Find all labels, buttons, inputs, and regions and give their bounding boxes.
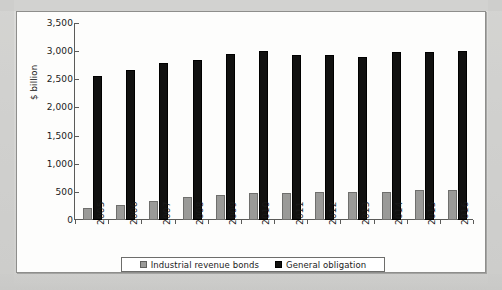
bar-general-obligation-2008 — [193, 60, 202, 220]
bar-industrial-revenue-bonds-2015 — [415, 190, 424, 220]
scanned-page: $ billion 05001,0001,5002,0002,5003,0003… — [0, 0, 502, 290]
bar-industrial-revenue-bonds-2014 — [382, 192, 391, 220]
x-axis-tick-mark — [75, 220, 76, 224]
scan-shading-bottom — [0, 274, 502, 290]
bar-general-obligation-2006 — [126, 70, 135, 220]
bar-group-2008 — [175, 23, 208, 220]
bar-group-2009 — [208, 23, 241, 220]
x-axis-tick-label-2014: 2014 — [394, 201, 404, 225]
bar-industrial-revenue-bonds-2009 — [216, 195, 225, 220]
y-axis-tick-label: 3,500 — [31, 19, 73, 28]
bar-group-2016 — [440, 23, 473, 220]
bar-general-obligation-2011 — [292, 55, 301, 220]
bar-general-obligation-2010 — [259, 51, 268, 220]
bar-general-obligation-2005 — [93, 76, 102, 220]
bar-group-2015 — [407, 23, 440, 220]
y-axis-tick-mark — [74, 79, 79, 80]
x-axis-tick-mark — [108, 220, 109, 224]
x-axis-tick-label-2012: 2012 — [328, 201, 338, 225]
scan-shading-left — [0, 0, 14, 290]
square-marker-black-icon — [275, 261, 282, 268]
chart-legend: Industrial revenue bonds General obligat… — [121, 257, 385, 272]
x-axis-tick-mark — [274, 220, 275, 224]
x-axis-tick-label-2007: 2007 — [162, 201, 172, 225]
chart-plot-area: $ billion 05001,0001,5002,0002,5003,0003… — [17, 12, 485, 272]
y-axis-tick-mark — [74, 164, 79, 165]
bars-container — [75, 23, 473, 220]
x-axis-tick-label-2013: 2013 — [361, 201, 371, 225]
legend-label: Industrial revenue bonds — [151, 260, 259, 270]
legend-item-general-obligation: General obligation — [275, 260, 366, 270]
bar-industrial-revenue-bonds-2007 — [149, 201, 158, 220]
y-axis-tick-label: 1,500 — [31, 131, 73, 140]
x-axis-tick-mark — [407, 220, 408, 224]
x-axis-tick-mark — [440, 220, 441, 224]
chart-figure: $ billion 05001,0001,5002,0002,5003,0003… — [16, 11, 486, 273]
y-axis-tick-label: 0 — [31, 216, 73, 225]
x-axis-tick-mark — [374, 220, 375, 224]
bar-general-obligation-2013 — [358, 57, 367, 220]
bar-general-obligation-2016 — [458, 51, 467, 220]
bar-group-2013 — [340, 23, 373, 220]
bar-group-2011 — [274, 23, 307, 220]
bar-general-obligation-2009 — [226, 54, 235, 220]
y-axis-tick-mark — [74, 192, 79, 193]
bar-group-2012 — [307, 23, 340, 220]
y-axis-tick-label: 1,000 — [31, 159, 73, 168]
x-axis-tick-mark — [208, 220, 209, 224]
x-axis-tick-label-2008: 2008 — [195, 201, 205, 225]
y-axis-tick-label: 500 — [31, 187, 73, 196]
bar-group-2005 — [75, 23, 108, 220]
x-axis-tick-label-2010: 2010 — [261, 201, 271, 225]
x-axis-tick-label-2015: 2015 — [427, 201, 437, 225]
bar-industrial-revenue-bonds-2005 — [83, 208, 92, 220]
bar-industrial-revenue-bonds-2012 — [315, 192, 324, 220]
x-axis-tick-mark — [241, 220, 242, 224]
bar-industrial-revenue-bonds-2010 — [249, 193, 258, 220]
y-axis-tick-mark — [74, 107, 79, 108]
bar-group-2007 — [141, 23, 174, 220]
y-axis-tick-labels: 05001,0001,5002,0002,5003,0003,500 — [29, 12, 73, 274]
bar-general-obligation-2015 — [425, 52, 434, 220]
bar-industrial-revenue-bonds-2006 — [116, 205, 125, 220]
bar-general-obligation-2012 — [325, 55, 334, 220]
bar-industrial-revenue-bonds-2013 — [348, 192, 357, 220]
bar-general-obligation-2007 — [159, 63, 168, 220]
y-axis-tick-mark — [74, 136, 79, 137]
y-axis-tick-mark — [74, 51, 79, 52]
square-marker-gray-icon — [140, 261, 147, 268]
legend-item-industrial-revenue-bonds: Industrial revenue bonds — [140, 260, 259, 270]
bar-group-2006 — [108, 23, 141, 220]
y-axis-tick-label: 2,000 — [31, 103, 73, 112]
x-axis-tick-label-2011: 2011 — [295, 201, 305, 225]
bar-group-2014 — [374, 23, 407, 220]
x-axis-tick-mark — [340, 220, 341, 224]
bar-industrial-revenue-bonds-2016 — [448, 190, 457, 220]
x-axis-tick-mark — [307, 220, 308, 224]
scan-shading-top — [0, 0, 502, 11]
legend-label: General obligation — [286, 260, 366, 270]
x-axis-tick-label-2016: 2016 — [460, 201, 470, 225]
x-axis-tick-label-2009: 2009 — [228, 201, 238, 225]
y-axis-tick-label: 3,000 — [31, 47, 73, 56]
y-axis-tick-label: 2,500 — [31, 75, 73, 84]
scan-shading-right — [488, 0, 502, 290]
x-axis-tick-mark — [175, 220, 176, 224]
bar-industrial-revenue-bonds-2011 — [282, 193, 291, 220]
x-axis-tick-label-2006: 2006 — [129, 201, 139, 225]
bar-group-2010 — [241, 23, 274, 220]
bar-industrial-revenue-bonds-2008 — [183, 197, 192, 220]
x-axis-tick-mark — [141, 220, 142, 224]
x-axis-tick-label-2005: 2005 — [96, 201, 106, 225]
x-axis-tick-mark — [473, 220, 474, 224]
y-axis-tick-mark — [74, 23, 79, 24]
bar-general-obligation-2014 — [392, 52, 401, 220]
